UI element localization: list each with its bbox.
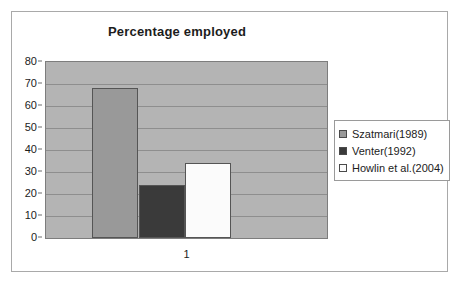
y-tick-label: 30	[25, 165, 37, 177]
y-tick-label: 70	[25, 77, 37, 89]
legend-swatch-icon	[339, 147, 347, 155]
y-tick-label: 20	[25, 187, 37, 199]
bar-szatmari-1989	[92, 88, 138, 238]
bar-howlin-et-al-2004	[185, 163, 231, 238]
y-tick-mark	[38, 61, 42, 62]
legend-item-label: Venter(1992)	[352, 145, 416, 157]
y-tick-mark	[38, 215, 42, 216]
gridline	[46, 84, 327, 85]
chart-legend: Szatmari(1989)Venter(1992)Howlin et al.(…	[334, 120, 450, 181]
y-tick-mark	[38, 127, 42, 128]
chart-title: Percentage employed	[12, 24, 342, 39]
x-tick-label: 1	[183, 248, 189, 260]
y-tick-label: 0	[31, 231, 37, 243]
legend-swatch-icon	[339, 130, 347, 138]
gridline	[46, 106, 327, 107]
legend-item-label: Szatmari(1989)	[352, 128, 427, 140]
chart-figure: Percentage employed 01020304050607080 1 …	[11, 11, 448, 272]
bar-venter-1992	[139, 185, 185, 238]
y-tick-label: 40	[25, 143, 37, 155]
y-tick-mark	[38, 149, 42, 150]
y-tick-mark	[38, 105, 42, 106]
plot-area	[45, 61, 328, 239]
y-axis: 01020304050607080	[12, 61, 42, 239]
legend-item-label: Howlin et al.(2004)	[352, 162, 444, 174]
legend-item[interactable]: Venter(1992)	[339, 142, 444, 159]
x-axis: 1	[45, 244, 328, 262]
legend-item[interactable]: Szatmari(1989)	[339, 125, 444, 142]
legend-swatch-icon	[339, 164, 347, 172]
y-tick-label: 60	[25, 99, 37, 111]
y-tick-mark	[38, 171, 42, 172]
y-tick-mark	[38, 83, 42, 84]
y-tick-label: 80	[25, 55, 37, 67]
y-tick-mark	[38, 193, 42, 194]
y-tick-label: 10	[25, 209, 37, 221]
legend-item[interactable]: Howlin et al.(2004)	[339, 159, 444, 176]
gridline	[46, 150, 327, 151]
y-tick-mark	[38, 237, 42, 238]
gridline	[46, 128, 327, 129]
y-tick-label: 50	[25, 121, 37, 133]
